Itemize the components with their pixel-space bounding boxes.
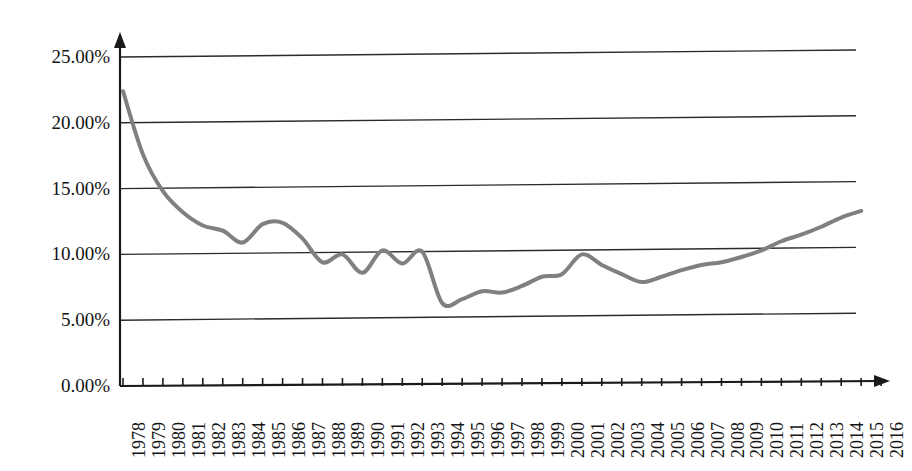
x-axis-tick-label: 1989 [349,422,367,458]
x-axis-tick-label: 1979 [150,422,168,458]
x-axis-tick-label: 2005 [669,422,687,458]
x-axis-tick-label: 1991 [389,422,407,458]
x-axis-tick-label: 1980 [170,422,188,458]
x-axis-tick-label: 2004 [649,422,667,458]
x-axis-tick-label: 2000 [569,422,587,458]
x-axis-tick-label: 2010 [768,422,786,458]
x-axis-tick-label: 2002 [609,422,627,458]
x-axis-tick-label: 1990 [369,422,387,458]
x-axis-tick-label: 1986 [290,422,308,458]
x-axis-tick-label: 1993 [429,422,447,458]
x-axis-tick-label: 2014 [848,422,866,458]
x-axis-tick-label: 1982 [210,422,228,458]
x-axis-tick-label: 1983 [230,422,248,458]
x-axis-tick-label: 2013 [828,422,846,458]
x-axis-tick-label: 1988 [330,422,348,458]
x-axis-tick-label: 1981 [190,422,208,458]
x-axis-tick-label: 2001 [589,422,607,458]
x-axis-tick-label: 2008 [729,422,747,458]
x-axis-tick-label: 2007 [709,422,727,458]
x-axis-tick-label: 2003 [629,422,647,458]
x-axis-tick-label: 1999 [549,422,567,458]
x-axis-tick-label: 1978 [130,422,148,458]
x-axis-tick-label: 1985 [270,422,288,458]
x-axis-tick-label: 2011 [788,423,806,458]
x-axis-tick-label: 1998 [529,422,547,458]
x-axis-tick-label: 1987 [310,422,328,458]
x-axis-tick-labels: 1978197919801981198219831984198519861987… [0,0,912,471]
line-chart: 25.00%20.00%15.00%10.00%5.00%0.00% 19781… [0,0,912,471]
x-axis-tick-label: 1995 [469,422,487,458]
x-axis-tick-label: 1992 [409,422,427,458]
x-axis-tick-label: 2012 [808,422,826,458]
x-axis-tick-label: 1994 [449,422,467,458]
x-axis-tick-label: 2015 [868,422,886,458]
x-axis-tick-label: 1996 [489,422,507,458]
x-axis-tick-label: 2016 [888,422,906,458]
x-axis-tick-label: 2006 [689,422,707,458]
x-axis-tick-label: 1984 [250,422,268,458]
x-axis-tick-label: 2009 [748,422,766,458]
x-axis-tick-label: 1997 [509,422,527,458]
